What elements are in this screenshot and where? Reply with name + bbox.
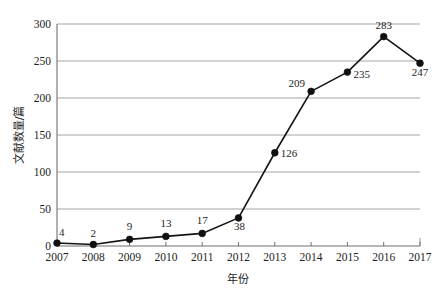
y-axis-tick-label: 150 (34, 129, 52, 141)
data-point-value-label: 209 (289, 77, 306, 89)
x-axis-tick-label: 2008 (82, 251, 105, 263)
x-axis-tick-label: 2015 (336, 251, 359, 263)
x-axis-tick-label: 2013 (263, 251, 286, 263)
data-point-value-label: 4 (59, 226, 65, 238)
data-point-marker (344, 69, 351, 76)
data-point-value-label: 2 (91, 227, 97, 239)
y-axis-tick-label: 100 (34, 166, 52, 178)
x-axis-tick-label: 2014 (300, 251, 323, 263)
data-point-value-label: 283 (375, 19, 392, 31)
data-point-value-label: 17 (197, 214, 209, 226)
chart-background (0, 0, 448, 294)
x-axis-tick-label: 2007 (46, 251, 69, 263)
x-axis-tick-label: 2017 (409, 251, 432, 263)
line-chart: 050100150200250300 200720082009201020112… (0, 0, 448, 294)
data-point-marker (54, 240, 61, 247)
data-point-value-label: 13 (160, 217, 172, 229)
data-point-marker (199, 230, 206, 237)
y-axis-title: 文献数量/篇 (12, 106, 26, 165)
x-axis-title: 年份 (227, 272, 249, 286)
data-point-value-label: 126 (281, 147, 298, 159)
x-axis-tick-label: 2011 (191, 251, 214, 263)
data-point-marker (126, 236, 133, 243)
data-point-marker (380, 33, 387, 40)
data-point-marker (308, 88, 315, 95)
y-axis-tick-label: 300 (34, 18, 52, 30)
data-point-value-label: 247 (412, 66, 429, 78)
x-axis-tick-label: 2010 (154, 251, 177, 263)
data-point-marker (271, 149, 278, 156)
y-axis-tick-label: 50 (40, 203, 52, 215)
chart-figure: 050100150200250300 200720082009201020112… (0, 0, 448, 294)
x-axis-tick-label: 2012 (227, 251, 250, 263)
x-axis-tick-label: 2009 (118, 251, 141, 263)
y-axis-tick-label: 250 (34, 55, 52, 67)
data-point-value-label: 235 (353, 68, 370, 80)
data-point-marker (90, 241, 97, 248)
y-axis-tick-label: 200 (34, 92, 52, 104)
data-point-value-label: 38 (234, 220, 246, 232)
data-point-marker (163, 233, 170, 240)
data-point-value-label: 9 (127, 220, 133, 232)
x-axis-tick-labels: 2007200820092010201120122013201420152016… (46, 251, 432, 263)
x-axis-tick-label: 2016 (372, 251, 395, 263)
